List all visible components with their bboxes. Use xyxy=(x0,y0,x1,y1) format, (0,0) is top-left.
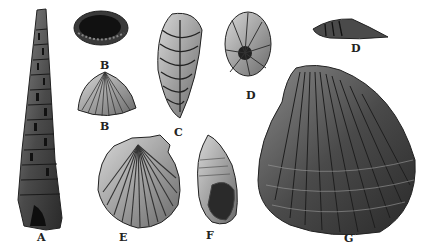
label-d-coiled: D xyxy=(246,90,256,101)
fossil-plate: A B B C D D E F G xyxy=(0,0,423,250)
label-g: G xyxy=(344,233,353,244)
specimen-g-bivalve xyxy=(258,65,415,234)
specimen-a-tower-shell xyxy=(18,9,62,230)
label-b-lower: B xyxy=(100,121,109,132)
specimen-d-coiled xyxy=(225,12,271,76)
specimen-f-gastropod xyxy=(198,135,238,224)
label-c: C xyxy=(174,127,183,138)
label-e: E xyxy=(119,232,127,243)
specimen-d-side xyxy=(313,19,388,39)
label-f: F xyxy=(206,230,214,241)
specimen-b-exterior xyxy=(78,72,136,116)
specimen-e-scallop xyxy=(98,135,180,228)
specimen-c-foraminifer xyxy=(158,13,202,118)
specimen-b-interior xyxy=(74,11,128,45)
fossil-illustrations xyxy=(0,0,423,250)
label-d-side: D xyxy=(351,43,361,54)
label-b-upper: B xyxy=(100,60,109,71)
label-a: A xyxy=(37,232,46,243)
